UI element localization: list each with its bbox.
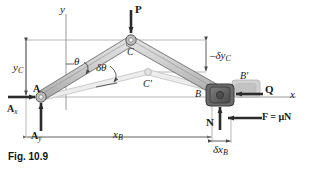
- linkage-diagram: [0, 0, 310, 169]
- dimension-label-delta-xb: δxB: [213, 144, 228, 157]
- yc-subscript: C: [18, 66, 23, 75]
- point-label-C: C: [127, 47, 134, 57]
- reaction-label-Ay: Ay: [31, 131, 41, 143]
- angle-label-delta-theta: δθ: [96, 62, 107, 73]
- delta-xb-letter: δx: [213, 143, 223, 155]
- dimension-label-xb: xB: [113, 129, 123, 142]
- force-label-Q: Q: [265, 84, 274, 95]
- point-label-B: B: [195, 89, 201, 99]
- slider-block-B: [206, 84, 234, 106]
- delta-xb-subscript: B: [223, 148, 228, 157]
- xb-subscript: B: [118, 133, 123, 142]
- delta-yc-letter: –δy: [210, 49, 226, 61]
- reaction-label-Ax: Ax: [7, 104, 17, 116]
- axis-label-x: x: [290, 89, 295, 100]
- reaction-Ax-subscript: x: [14, 108, 17, 116]
- angle-label-theta: θ: [74, 56, 79, 67]
- force-label-P: P: [135, 4, 142, 15]
- figure-10-9: y x P A C C' B B' Q N F = μN Ax Ay yC xB…: [0, 0, 310, 169]
- point-label-C-prime: C': [143, 79, 152, 89]
- reaction-Ay-subscript: y: [38, 135, 41, 143]
- force-label-friction: F = μN: [262, 112, 291, 122]
- pin-C: [126, 35, 136, 45]
- point-label-A: A: [33, 84, 40, 94]
- axis-label-y: y: [60, 4, 65, 15]
- link-AC: [38, 37, 134, 100]
- delta-yc-subscript: C: [226, 54, 231, 63]
- figure-caption: Fig. 10.9: [8, 152, 48, 162]
- dimension-label-yc: yC: [13, 62, 23, 75]
- dimension-label-delta-yc: –δyC: [210, 50, 231, 63]
- force-label-N: N: [206, 117, 214, 128]
- point-label-B-prime: B': [240, 71, 248, 81]
